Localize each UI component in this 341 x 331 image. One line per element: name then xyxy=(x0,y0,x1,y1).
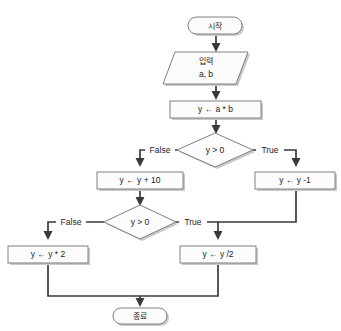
node-assign-product[interactable]: y ← a * b xyxy=(170,101,263,120)
edge-label-decision1-false: False xyxy=(145,144,175,156)
svg-text:False: False xyxy=(150,145,171,155)
node-end-label: 종료 xyxy=(133,312,147,321)
connector-start-to-input xyxy=(212,35,221,52)
node-minus-one[interactable]: y ← y -1 xyxy=(255,172,337,191)
node-input[interactable]: 입력 a, b xyxy=(163,52,250,86)
node-start-label: 시작 xyxy=(208,21,223,31)
node-decision2[interactable]: y > 0 xyxy=(104,205,178,241)
connector-timestwo-to-end xyxy=(48,263,140,296)
node-times-two[interactable]: y ← y * 2 xyxy=(8,246,90,265)
connector-merge-to-end-arrow xyxy=(136,296,145,307)
connector-divtwo-to-end xyxy=(140,263,218,296)
connector-input-to-assign xyxy=(212,85,221,100)
svg-text:True: True xyxy=(261,145,278,155)
connector-addten-to-decision2 xyxy=(136,189,145,206)
node-assign-product-label: y ← a * b xyxy=(198,104,233,114)
connector-minusone-to-merge xyxy=(218,189,296,222)
node-times-two-label: y ← y * 2 xyxy=(31,249,66,259)
node-decision2-label: y > 0 xyxy=(131,217,150,227)
svg-text:True: True xyxy=(184,217,201,227)
node-add-ten-label: y ← y + 10 xyxy=(120,175,161,185)
flowchart-canvas: 시작 입력 a, b y ← a * b y > 0 False T xyxy=(0,0,341,331)
node-end[interactable]: 종료 xyxy=(113,308,169,326)
svg-text:False: False xyxy=(61,217,82,227)
node-div-two[interactable]: y ← y /2 xyxy=(180,246,258,265)
node-input-label-line1: 입력 xyxy=(199,56,213,66)
node-add-ten[interactable]: y ← y + 10 xyxy=(97,172,185,191)
edge-label-decision2-false: False xyxy=(56,216,86,228)
node-start[interactable]: 시작 xyxy=(188,17,244,36)
node-decision1-label: y > 0 xyxy=(206,145,225,155)
node-decision1[interactable]: y > 0 xyxy=(177,133,255,169)
node-input-label-line2: a, b xyxy=(199,69,213,79)
edge-label-decision2-true: True xyxy=(179,216,207,228)
node-div-two-label: y ← y /2 xyxy=(202,249,233,259)
edge-label-decision1-true: True xyxy=(256,144,284,156)
node-minus-one-label: y ← y -1 xyxy=(279,175,311,185)
